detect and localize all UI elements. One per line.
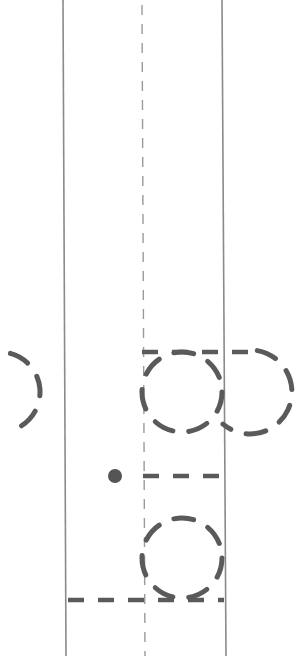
- marker-dot: [108, 469, 122, 483]
- upper-right-dashed-arc: [223, 351, 292, 434]
- diagram-canvas: [0, 0, 308, 656]
- lower-dashed-circle: [142, 518, 222, 598]
- upper-left-dashed-arc: [10, 353, 40, 428]
- left-boundary-line: [63, 0, 66, 656]
- upper-dashed-circle: [142, 352, 222, 432]
